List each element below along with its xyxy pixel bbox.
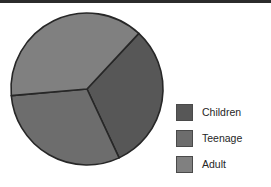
chart-legend: Children Teenage Adult (176, 99, 268, 177)
pie-plot-area (8, 9, 168, 173)
legend-item-label: Teenage (202, 133, 242, 144)
color-swatch-icon (176, 104, 193, 121)
pie-slices (11, 13, 163, 165)
legend-item-adult[interactable]: Adult (176, 151, 268, 177)
pie-chart-figure: Children Teenage Adult (0, 0, 271, 187)
color-swatch-icon (176, 130, 193, 147)
legend-item-teenage[interactable]: Teenage (176, 125, 268, 151)
legend-item-label: Adult (202, 159, 226, 170)
pie-svg (8, 9, 168, 173)
legend-item-children[interactable]: Children (176, 99, 268, 125)
legend-item-label: Children (202, 107, 241, 118)
color-swatch-icon (176, 156, 193, 173)
figure-top-rule (0, 0, 271, 3)
